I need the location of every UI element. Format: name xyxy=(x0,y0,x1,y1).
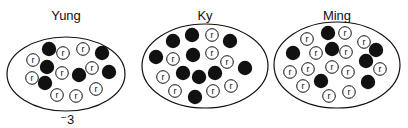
filled-particle-icon xyxy=(314,74,328,88)
group-ming: Mingrrrrrrrrrrrrr xyxy=(274,8,400,108)
r-particle-icon: r xyxy=(169,85,182,98)
r-label: r xyxy=(172,54,175,64)
filled-particle-icon xyxy=(369,43,383,57)
r-label: r xyxy=(302,81,305,91)
r-label: r xyxy=(174,86,177,96)
r-particle-icon: r xyxy=(57,47,70,60)
filled-particle-icon xyxy=(176,66,190,80)
r-label: r xyxy=(379,64,382,74)
r-label: r xyxy=(56,90,59,100)
r-particle-icon: r xyxy=(207,85,220,98)
filled-particle-icon xyxy=(102,65,116,79)
r-particle-icon: r xyxy=(51,89,64,102)
r-particle-icon: r xyxy=(86,62,99,75)
group-label: Ming xyxy=(323,8,351,23)
r-particle-icon: r xyxy=(310,47,323,60)
filled-particle-icon xyxy=(192,70,206,84)
r-particle-icon: r xyxy=(90,83,103,96)
group-yung: Yungrrrrrrrrr⁻3 xyxy=(7,8,125,127)
particle-groups-diagram: Yungrrrrrrrrr⁻3KyrrrrrrrrMingrrrrrrrrrrr… xyxy=(0,0,408,128)
r-particle-icon: r xyxy=(302,63,315,76)
r-particle-icon: r xyxy=(206,47,219,60)
filled-particle-icon xyxy=(188,90,202,104)
r-label: r xyxy=(91,63,94,73)
filled-particle-icon xyxy=(325,42,339,56)
r-label: r xyxy=(306,34,309,44)
r-particle-icon: r xyxy=(323,90,336,103)
r-particle-icon: r xyxy=(342,66,355,79)
r-particle-icon: r xyxy=(340,46,353,59)
filled-particle-icon xyxy=(185,28,199,42)
filled-particle-icon xyxy=(359,54,373,68)
r-label: r xyxy=(344,28,347,38)
r-particle-icon: r xyxy=(56,67,69,80)
filled-particle-icon xyxy=(95,46,109,60)
r-label: r xyxy=(211,48,214,58)
filled-particle-icon xyxy=(286,46,300,60)
filled-particle-icon xyxy=(166,34,180,48)
r-label: r xyxy=(328,91,331,101)
r-particle-icon: r xyxy=(301,33,314,46)
r-label: r xyxy=(61,68,64,78)
r-label: r xyxy=(363,37,366,47)
r-label: r xyxy=(307,64,310,74)
r-label: r xyxy=(345,47,348,57)
r-particle-icon: r xyxy=(167,53,180,66)
r-label: r xyxy=(32,55,35,65)
r-particle-icon: r xyxy=(157,71,170,84)
filled-particle-icon xyxy=(42,42,56,56)
r-particle-icon: r xyxy=(358,36,371,49)
r-label: r xyxy=(226,57,229,67)
r-label: r xyxy=(62,48,65,58)
r-label: r xyxy=(31,73,34,83)
group-label: Ky xyxy=(197,8,213,23)
r-label: r xyxy=(348,87,351,97)
filled-particle-icon xyxy=(321,26,335,40)
r-particle-icon: r xyxy=(284,66,297,79)
r-particle-icon: r xyxy=(339,27,352,40)
group-label: Yung xyxy=(51,8,81,23)
r-particle-icon: r xyxy=(206,29,219,42)
filled-particle-icon xyxy=(361,75,375,89)
r-label: r xyxy=(75,91,78,101)
r-particle-icon: r xyxy=(225,80,238,93)
r-label: r xyxy=(315,48,318,58)
r-particle-icon: r xyxy=(77,43,90,56)
r-particle-icon: r xyxy=(374,63,387,76)
r-particle-icon: r xyxy=(27,54,40,67)
r-particle-icon: r xyxy=(221,56,234,69)
filled-particle-icon xyxy=(223,34,237,48)
filled-particle-icon xyxy=(208,66,222,80)
r-particle-icon: r xyxy=(26,72,39,85)
filled-particle-icon xyxy=(72,68,86,82)
r-label: r xyxy=(331,62,334,72)
r-label: r xyxy=(230,81,233,91)
r-label: r xyxy=(289,67,292,77)
r-label: r xyxy=(347,67,350,77)
r-label: r xyxy=(95,84,98,94)
group-caption: ⁻3 xyxy=(60,112,74,127)
filled-particle-icon xyxy=(40,60,54,74)
filled-particle-icon xyxy=(238,61,252,75)
filled-particle-icon xyxy=(38,76,52,90)
r-label: r xyxy=(211,30,214,40)
r-label: r xyxy=(212,86,215,96)
r-particle-icon: r xyxy=(70,90,83,103)
r-particle-icon: r xyxy=(297,80,310,93)
r-label: r xyxy=(82,44,85,54)
group-ky: Kyrrrrrrrr xyxy=(142,8,268,108)
filled-particle-icon xyxy=(149,50,163,64)
r-particle-icon: r xyxy=(326,61,339,74)
filled-particle-icon xyxy=(186,48,200,62)
r-particle-icon: r xyxy=(343,86,356,99)
r-label: r xyxy=(162,72,165,82)
